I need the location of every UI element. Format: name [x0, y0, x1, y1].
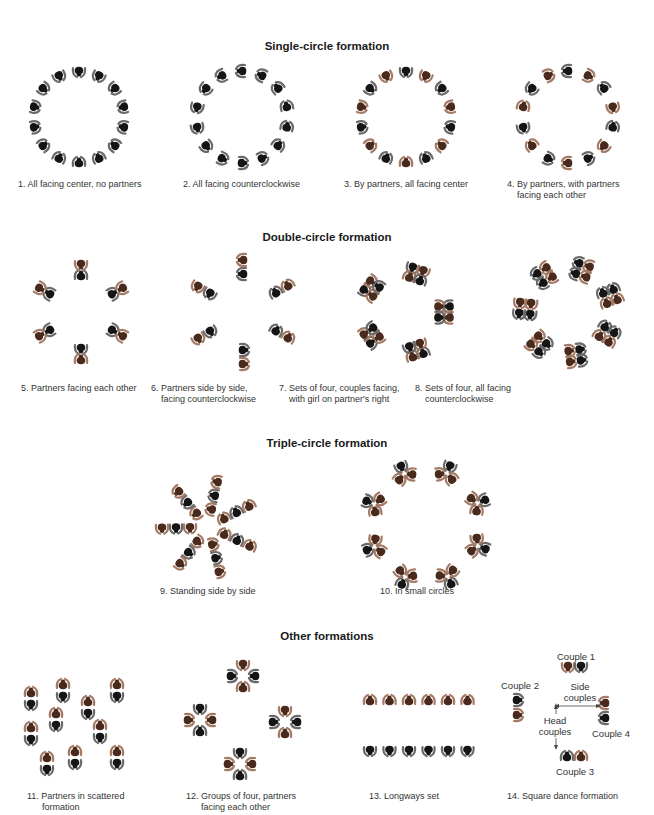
man-dancer-icon: [599, 712, 609, 724]
figure-7: [357, 261, 454, 363]
woman-dancer-icon: [368, 505, 382, 517]
caption-5-partners-facing: 5. Partners facing each other: [21, 383, 137, 394]
man-dancer-icon: [270, 137, 286, 153]
figure-1: [29, 67, 130, 168]
woman-dancer-icon: [443, 471, 459, 487]
man-dancer-icon: [198, 138, 214, 154]
man-dancer-icon: [523, 81, 539, 97]
man-dancer-icon: [227, 670, 237, 682]
woman-dancer-icon: [213, 564, 226, 578]
man-dancer-icon: [194, 704, 206, 714]
woman-dancer-icon: [206, 714, 216, 726]
woman-dancer-icon: [25, 722, 37, 732]
woman-dancer-icon: [279, 706, 291, 716]
caption-13-longways: 13. Longways set: [369, 791, 439, 802]
man-dancer-icon: [29, 120, 42, 134]
woman-dancer-icon: [372, 492, 388, 508]
man-dancer-icon: [236, 65, 246, 77]
man-dancer-icon: [52, 69, 68, 84]
man-dancer-icon: [50, 721, 62, 731]
figure-3: [356, 67, 457, 168]
figure-12: [184, 660, 302, 781]
woman-dancer-icon: [435, 569, 447, 582]
caption-14-square-dance: 14. Square dance formation: [507, 791, 618, 802]
woman-dancer-icon: [422, 695, 434, 705]
woman-dancer-icon: [184, 714, 194, 726]
woman-dancer-icon: [241, 498, 257, 513]
man-dancer-icon: [106, 81, 122, 97]
label-couple-2: Couple 2: [497, 680, 543, 691]
woman-dancer-icon: [578, 269, 592, 284]
figure-9: [156, 475, 258, 579]
man-dancer-icon: [254, 67, 269, 83]
woman-dancer-icon: [541, 67, 556, 83]
woman-dancer-icon: [94, 720, 106, 730]
man-dancer-icon: [75, 270, 87, 280]
man-dancer-icon: [82, 709, 94, 719]
woman-dancer-icon: [575, 751, 587, 761]
man-dancer-icon: [581, 150, 596, 166]
man-dancer-icon: [461, 746, 473, 756]
label-head-couples: Head couples: [530, 715, 580, 737]
woman-dancer-icon: [246, 758, 256, 770]
woman-dancer-icon: [239, 358, 249, 370]
man-dancer-icon: [170, 523, 182, 533]
man-dancer-icon: [73, 157, 85, 167]
caption-1-all-facing-center: 1. All facing center, no partners: [18, 179, 142, 190]
man-dancer-icon: [363, 81, 379, 97]
woman-dancer-icon: [237, 660, 249, 670]
figure-13: [364, 695, 474, 756]
woman-dancer-icon: [205, 502, 218, 516]
man-dancer-icon: [210, 551, 223, 565]
woman-dancer-icon: [207, 537, 220, 551]
woman-dancer-icon: [513, 709, 523, 721]
woman-dancer-icon: [242, 538, 258, 553]
man-dancer-icon: [400, 67, 412, 77]
man-dancer-icon: [117, 120, 130, 134]
woman-dancer-icon: [210, 475, 223, 489]
woman-dancer-icon: [57, 679, 69, 689]
caption-4-partners-facing-each-other: 4. By partners, with partners facing eac…: [507, 179, 620, 201]
woman-dancer-icon: [523, 137, 539, 153]
man-dancer-icon: [94, 733, 106, 743]
label-couple-1: Couple 1: [546, 651, 606, 662]
man-dancer-icon: [106, 137, 122, 153]
woman-dancer-icon: [114, 328, 129, 344]
woman-dancer-icon: [562, 662, 574, 672]
woman-dancer-icon: [75, 354, 87, 364]
man-dancer-icon: [36, 137, 52, 153]
woman-dancer-icon: [237, 254, 247, 266]
man-dancer-icon: [239, 344, 249, 356]
caption-2-all-facing-ccw: 2. All facing counterclockwise: [183, 179, 300, 190]
man-dancer-icon: [190, 101, 204, 114]
woman-dancer-icon: [418, 69, 434, 84]
man-dancer-icon: [29, 100, 42, 114]
caption-7-sets-of-four-couples-facing: 7. Sets of four, couples facing, with gi…: [279, 383, 400, 405]
man-dancer-icon: [249, 670, 259, 682]
caption-3-by-partners-facing-center: 3. By partners, all facing center: [344, 179, 468, 190]
man-dancer-icon: [190, 122, 204, 135]
arrowhead-icon: [554, 745, 558, 750]
woman-dancer-icon: [400, 157, 412, 167]
man-dancer-icon: [238, 157, 248, 169]
figure-5: [33, 260, 130, 365]
man-dancer-icon: [208, 488, 221, 502]
man-dancer-icon: [215, 151, 230, 167]
woman-dancer-icon: [464, 542, 480, 558]
man-dancer-icon: [57, 692, 69, 702]
woman-dancer-icon: [464, 491, 480, 507]
woman-dancer-icon: [75, 260, 87, 270]
woman-dancer-icon: [433, 137, 449, 153]
woman-dancer-icon: [444, 563, 460, 579]
woman-dancer-icon: [470, 504, 483, 516]
man-dancer-icon: [513, 694, 523, 706]
woman-dancer-icon: [562, 157, 572, 169]
caption-12-groups-of-four: 12. Groups of four, partners facing each…: [186, 791, 296, 813]
woman-dancer-icon: [364, 695, 376, 705]
woman-dancer-icon: [216, 511, 232, 526]
man-dancer-icon: [69, 759, 81, 769]
man-dancer-icon: [91, 150, 107, 165]
woman-dancer-icon: [41, 752, 53, 762]
label-couple-3: Couple 3: [545, 766, 605, 777]
woman-dancer-icon: [82, 696, 94, 706]
